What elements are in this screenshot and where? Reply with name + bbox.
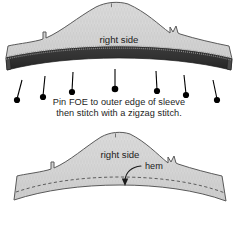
- hem-label: hem: [145, 161, 163, 171]
- right-side-label-top: right side: [100, 34, 139, 45]
- caption-foe: Pin FOE to outer edge of sleeve then sti…: [0, 97, 238, 119]
- hem-figure-drawing: right side hem: [0, 124, 238, 232]
- instruction-sheet: right side Pin FOE to outer edge of slee…: [0, 0, 238, 248]
- caption-foe-line-2: then stitch with a zigzag stitch.: [0, 108, 238, 119]
- foe-band-right-end: [227, 58, 232, 70]
- right-side-label-bottom: right side: [101, 149, 140, 160]
- foe-figure-drawing: right side: [0, 0, 238, 110]
- fabric-texture: [14, 132, 226, 201]
- pin: [69, 72, 75, 95]
- sleeve-pattern-piece-hem: [14, 132, 226, 201]
- pin: [112, 69, 119, 92]
- caption-foe-line-1: Pin FOE to outer edge of sleeve: [0, 97, 238, 108]
- pin: [154, 71, 160, 94]
- figure-narrow-hem: right side hem If not using FOE, just st…: [0, 124, 238, 248]
- figure-foe-application: right side Pin FOE to outer edge of slee…: [0, 0, 238, 124]
- pin: [183, 75, 189, 98]
